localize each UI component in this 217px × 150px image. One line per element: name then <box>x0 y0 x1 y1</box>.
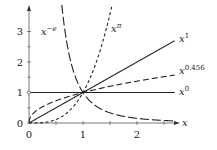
label-x-0456: x0.456 <box>179 64 205 76</box>
x-tick-2: 2 <box>134 129 140 140</box>
label-x-1: x1 <box>179 32 189 44</box>
y-tick-2: 2 <box>17 57 23 68</box>
x-axis-label: x <box>182 117 188 128</box>
curves <box>29 5 175 123</box>
label-x-pi: xπ <box>111 22 122 34</box>
y-tick-3: 3 <box>17 26 23 37</box>
label-x-0: x0 <box>179 85 189 97</box>
x-tick-0: 0 <box>26 129 32 140</box>
curve-x- <box>29 5 112 123</box>
power-functions-chart: 3 2 1 0 0 1 2 x x−e xπ x1 x0.456 x0 <box>0 0 217 150</box>
y-tick-0: 0 <box>17 118 23 129</box>
label-x-neg-e: x−e <box>41 25 57 37</box>
x-axis-arrow-icon <box>174 121 180 125</box>
point-0-1 <box>27 91 30 94</box>
y-axis-arrow-icon <box>27 5 31 11</box>
y-tick-1: 1 <box>17 87 23 98</box>
curve-x-1- <box>29 41 175 123</box>
x-tick-1: 1 <box>80 129 86 140</box>
